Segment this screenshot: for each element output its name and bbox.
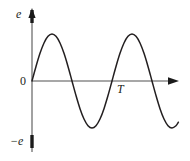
x-axis-arrow-icon xyxy=(168,77,179,85)
figure-canvas xyxy=(0,0,190,161)
sine-wave-figure: e 0 −e T xyxy=(0,0,190,161)
origin-label: 0 xyxy=(20,75,26,87)
x-axis-period-label: T xyxy=(117,83,124,95)
y-axis-negative-amplitude-label: −e xyxy=(10,135,23,147)
y-axis-positive-amplitude-label: e xyxy=(16,8,21,20)
